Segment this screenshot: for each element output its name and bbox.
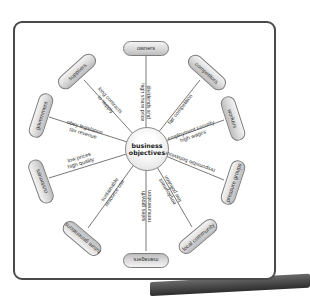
center-label-line1: business [131, 142, 162, 150]
stakeholder-managers: managers [123, 253, 169, 268]
objective-owners: dividends andhigh share price [140, 80, 152, 124]
stakeholder-owners: owners [123, 41, 169, 56]
center-label-line2: objectives [129, 149, 165, 157]
objective-managers: sales growthremuneration [140, 184, 152, 228]
